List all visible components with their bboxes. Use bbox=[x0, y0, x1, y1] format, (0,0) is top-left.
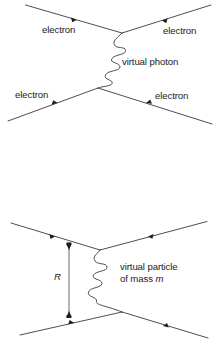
range-arrow-lower-right bbox=[163, 323, 169, 327]
label-mass-symbol: m bbox=[155, 273, 163, 284]
bottom-diagram-group bbox=[11, 222, 208, 339]
range-endpoint-dot-top bbox=[67, 242, 72, 245]
label-virtual-photon: virtual photon bbox=[122, 56, 178, 67]
range-fermion-line-in-upper-left bbox=[11, 223, 100, 250]
label-electron-in-left: electron bbox=[42, 24, 75, 35]
label-electron-in-right: electron bbox=[163, 25, 196, 36]
range-endpoint-dot-bottom bbox=[67, 315, 72, 318]
label-electron-out-left: electron bbox=[15, 89, 48, 100]
diagram-canvas bbox=[0, 0, 217, 354]
label-virtual-particle-line1: virtual particle bbox=[120, 261, 178, 272]
label-range-R: R bbox=[54, 271, 61, 282]
top-diagram-group bbox=[8, 5, 212, 124]
range-fermion-line-in-upper-right bbox=[100, 222, 207, 251]
label-electron-out-right: electron bbox=[155, 90, 188, 101]
arrow-marker-upper-left bbox=[71, 18, 77, 23]
label-virtual-particle-line2: of mass m bbox=[120, 273, 163, 284]
range-arrow-upper-right bbox=[148, 234, 154, 239]
feynman-diagram-figure: electron electron virtual photon electro… bbox=[0, 0, 217, 354]
label-of-mass-text: of mass bbox=[120, 273, 155, 284]
virtual-particle-propagator bbox=[88, 250, 122, 312]
range-arrow-upper-left bbox=[49, 234, 55, 239]
